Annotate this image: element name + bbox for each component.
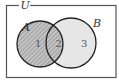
region-3-label: 3	[81, 38, 87, 49]
universe-label: U	[21, 0, 31, 12]
venn-diagram: U A B 1 2 3	[0, 0, 119, 82]
set-b-label: B	[92, 17, 101, 30]
set-a-label: A	[21, 21, 30, 34]
region-1-label: 1	[35, 38, 41, 49]
region-2-label: 2	[56, 38, 62, 49]
